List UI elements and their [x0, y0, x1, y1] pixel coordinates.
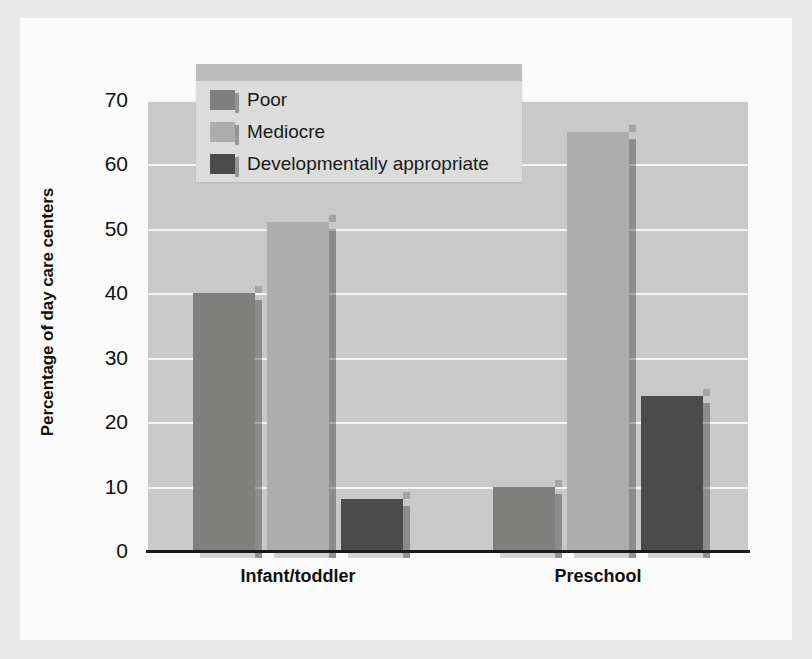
y-tick-label-0: 0 [86, 540, 128, 561]
bar-top [629, 125, 636, 132]
bar-face [193, 293, 255, 551]
bar-top [255, 286, 262, 293]
bar-face [493, 487, 555, 551]
legend-label: Developmentally appropriate [247, 153, 489, 175]
bar-side [629, 139, 636, 558]
bar-face [267, 222, 329, 551]
bar-face [567, 132, 629, 551]
y-tick-label-70: 70 [86, 89, 128, 110]
bar-mediocre-preschool [567, 132, 629, 551]
bar-top [555, 480, 562, 487]
legend-label: Mediocre [247, 121, 325, 143]
legend-item-poor[interactable]: Poor [210, 84, 516, 116]
legend-swatch-face [210, 154, 235, 174]
legend: PoorMediocreDevelopmentally appropriate [196, 64, 522, 182]
x-category-label-infant-toddler: Infant/toddler [193, 566, 403, 587]
legend-swatch-face [210, 122, 235, 142]
legend-item-developmentally-appropriate[interactable]: Developmentally appropriate [210, 148, 516, 180]
legend-swatch-icon [210, 122, 235, 142]
legend-label: Poor [247, 89, 287, 111]
y-tick-label-50: 50 [86, 218, 128, 239]
bar-side [329, 229, 336, 558]
bar-poor-preschool [493, 487, 555, 551]
legend-swatch-icon [210, 154, 235, 174]
bar-side [255, 300, 262, 558]
bar-top [329, 215, 336, 222]
bar-side [555, 494, 562, 558]
bar-face [341, 499, 403, 551]
legend-swatch-icon [210, 90, 235, 110]
x-category-label-preschool: Preschool [493, 566, 703, 587]
y-tick-label-60: 60 [86, 153, 128, 174]
legend-swatch-side [235, 125, 239, 145]
y-tick-label-30: 30 [86, 347, 128, 368]
figure-frame: Percentage of day care centers 706050403… [0, 0, 812, 659]
bar-developmentally-appropriate-infant-toddler [341, 499, 403, 551]
bar-developmentally-appropriate-preschool [641, 396, 703, 551]
bar-face [641, 396, 703, 551]
legend-titlebar [196, 64, 522, 81]
bar-poor-infant-toddler [193, 293, 255, 551]
bar-side [703, 403, 710, 558]
legend-swatch-side [235, 157, 239, 177]
x-axis-line [146, 550, 750, 553]
figure-canvas: Percentage of day care centers 706050403… [20, 18, 792, 640]
bar-top [703, 389, 710, 396]
y-axis-title: Percentage of day care centers [38, 112, 58, 512]
legend-swatch-face [210, 90, 235, 110]
gridline-50 [148, 229, 748, 231]
legend-item-mediocre[interactable]: Mediocre [210, 116, 516, 148]
bar-mediocre-infant-toddler [267, 222, 329, 551]
bar-top [403, 492, 410, 499]
legend-items: PoorMediocreDevelopmentally appropriate [210, 84, 516, 180]
y-tick-label-40: 40 [86, 282, 128, 303]
legend-swatch-side [235, 93, 239, 113]
y-tick-label-20: 20 [86, 411, 128, 432]
y-tick-label-10: 10 [86, 476, 128, 497]
